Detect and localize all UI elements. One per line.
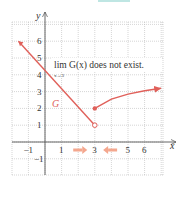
svg-text:1: 1 xyxy=(37,120,42,130)
svg-text:3: 3 xyxy=(92,145,97,155)
svg-text:2: 2 xyxy=(37,103,42,113)
svg-text:−1: −1 xyxy=(23,145,33,155)
grid xyxy=(12,22,163,175)
svg-text:3: 3 xyxy=(37,87,42,97)
svg-text:−1: −1 xyxy=(34,154,44,164)
limit-graph: −11356−1123456 y x G lim G(x) does not e… xyxy=(0,0,186,206)
y-axis-label: y xyxy=(35,10,41,21)
svg-text:6: 6 xyxy=(37,36,42,46)
curve-label-G: G xyxy=(52,98,59,109)
svg-text:1: 1 xyxy=(59,145,64,155)
svg-text:6: 6 xyxy=(142,145,147,155)
tick-labels: −11356−1123456 xyxy=(23,36,147,164)
svg-text:5: 5 xyxy=(126,145,131,155)
x-axis-label: x xyxy=(169,140,175,151)
limit-annotation-subscript: x→3 xyxy=(54,73,65,78)
svg-text:4: 4 xyxy=(37,70,42,80)
limit-annotation: lim G(x) does not exist. xyxy=(54,60,144,71)
